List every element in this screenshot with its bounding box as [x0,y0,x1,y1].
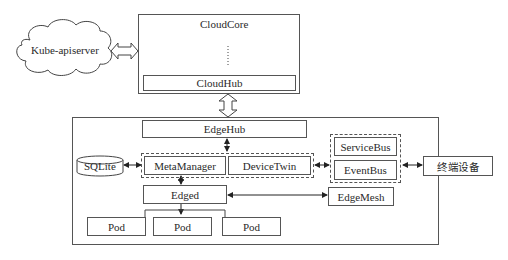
edged-box: Edged [143,185,227,204]
terminal-device-box: 终端设备 [423,156,493,176]
block-double-arrow-horizontal [111,43,138,59]
metamanager-label: MetaManager [154,160,216,172]
kube-apiserver-label: Kube-apiserver [31,44,99,56]
devicetwin-box: DeviceTwin [228,156,311,175]
pod-label: Pod [243,221,260,233]
pod-box: Pod [153,217,212,236]
servicebus-label: ServiceBus [340,141,390,153]
pod-box: Pod [87,217,146,236]
pod-box: Pod [222,217,281,236]
edged-label: Edged [171,189,199,201]
terminal-device-label: 终端设备 [437,159,479,174]
edgehub-box: EdgeHub [142,120,307,138]
devicetwin-label: DeviceTwin [243,160,297,172]
edgemesh-box: EdgeMesh [328,187,394,206]
pod-label: Pod [108,221,125,233]
pod-label: Pod [174,221,191,233]
sqlite-label: SQLite [84,160,116,172]
edgemesh-label: EdgeMesh [337,191,384,203]
block-double-arrow-vertical [219,94,237,117]
cloudcore-title: CloudCore [200,18,248,30]
eventbus-label: EventBus [344,164,387,176]
cloudhub-box: CloudHub [143,75,296,91]
metamanager-box: MetaManager [144,156,226,175]
eventbus-box: EventBus [334,160,397,180]
servicebus-box: ServiceBus [334,137,397,156]
cloudhub-label: CloudHub [197,77,243,89]
edgehub-label: EdgeHub [204,123,246,135]
